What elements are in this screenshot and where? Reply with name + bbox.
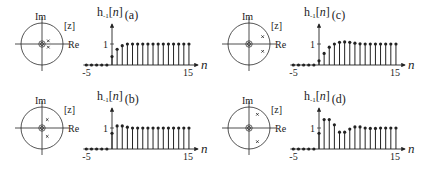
- x-tick-label-right: 15: [390, 151, 400, 162]
- stem-marker: [328, 118, 331, 121]
- stem-marker: [95, 147, 98, 150]
- y-tick-label: 1: [310, 39, 315, 50]
- stem-marker: [110, 55, 113, 58]
- y-tick-label: 1: [103, 39, 108, 50]
- n-axis-label: n: [408, 141, 415, 156]
- stem-marker: [116, 48, 119, 51]
- stem-marker: [343, 40, 346, 43]
- stem-marker: [364, 42, 367, 45]
- stem-marker: [157, 126, 160, 129]
- stem-marker: [182, 42, 185, 45]
- y-tick-label: 1: [103, 123, 108, 134]
- stem-marker: [302, 63, 305, 66]
- stem-marker: [121, 124, 124, 127]
- stem-marker: [151, 126, 154, 129]
- stem-marker: [136, 126, 139, 129]
- pole-x-icon: [46, 118, 49, 121]
- stem-marker: [358, 125, 361, 128]
- stem-marker: [151, 42, 154, 45]
- stem-marker: [100, 147, 103, 150]
- stem-marker: [177, 42, 180, 45]
- pole-x-icon: [256, 140, 259, 143]
- stem-marker: [187, 42, 190, 45]
- stem-plot: 1-515nh-1[n](d): [289, 89, 414, 162]
- x-tick-label-right: 15: [183, 67, 193, 78]
- x-tick-label-right: 15: [390, 67, 400, 78]
- n-axis-label: n: [201, 57, 208, 72]
- stem-marker: [131, 126, 134, 129]
- stem-marker: [333, 123, 336, 126]
- stem-marker: [172, 42, 175, 45]
- pole-zero-diagram: Im[z]Re: [15, 11, 80, 71]
- stem-marker: [141, 42, 144, 45]
- stem-marker: [126, 42, 129, 45]
- im-label: Im: [35, 11, 46, 22]
- im-label: Im: [242, 11, 253, 22]
- x-tick-label-left: -5: [289, 67, 297, 78]
- pole-x-icon: [261, 35, 264, 38]
- stem-marker: [364, 126, 367, 129]
- re-label: Re: [68, 39, 80, 50]
- x-tick-label-left: -5: [82, 151, 90, 162]
- stem-marker: [328, 46, 331, 49]
- pole-x-icon: [256, 113, 259, 116]
- z-plane-label: [z]: [64, 104, 75, 115]
- re-label: Re: [275, 123, 287, 134]
- stem-marker: [105, 147, 108, 150]
- x-tick-label-left: -5: [289, 151, 297, 162]
- stem-marker: [379, 126, 382, 129]
- stem-marker: [307, 147, 310, 150]
- pole-zero-diagram: Im[z]Re: [222, 95, 287, 155]
- stem-plot: 1-515nh-1[n](b): [82, 89, 207, 162]
- stem-marker: [116, 124, 119, 127]
- stem-marker: [162, 42, 165, 45]
- panels-container: Im[z]Re1-515nh-1[n](a)Im[z]Re1-515nh-1[n…: [15, 5, 415, 162]
- stem-marker: [394, 42, 397, 45]
- stem-marker: [338, 41, 341, 44]
- stem-marker: [126, 126, 129, 129]
- pole-x-icon: [47, 40, 50, 43]
- stem-marker: [389, 42, 392, 45]
- stem-marker: [187, 126, 190, 129]
- x-tick-label-left: -5: [82, 67, 90, 78]
- n-axis-label: n: [408, 57, 415, 72]
- stem-plot: 1-515nh-1[n](c): [289, 5, 414, 78]
- stem-marker: [121, 44, 124, 47]
- stem-plot: 1-515nh-1[n](a): [82, 5, 207, 78]
- stem-marker: [343, 131, 346, 134]
- stem-marker: [146, 42, 149, 45]
- im-label: Im: [242, 95, 253, 106]
- stem-marker: [136, 42, 139, 45]
- re-label: Re: [68, 123, 80, 134]
- stem-marker: [100, 63, 103, 66]
- stem-marker: [348, 41, 351, 44]
- stem-marker: [141, 126, 144, 129]
- panel-title: h-1[n](c): [304, 5, 345, 22]
- stem-marker: [323, 52, 326, 55]
- x-tick-label-right: 15: [183, 151, 193, 162]
- pole-x-icon: [261, 50, 264, 53]
- stem-marker: [384, 126, 387, 129]
- z-plane-label: [z]: [64, 20, 75, 31]
- pole-x-icon: [47, 46, 50, 49]
- stem-marker: [110, 132, 113, 135]
- panel-a: Im[z]Re1-515nh-1[n](a): [15, 5, 208, 78]
- stem-marker: [358, 42, 361, 45]
- pole-zero-diagram: Im[z]Re: [15, 95, 80, 155]
- stem-marker: [389, 126, 392, 129]
- stem-marker: [333, 42, 336, 45]
- stem-marker: [384, 42, 387, 45]
- stem-marker: [317, 59, 320, 62]
- stem-marker: [323, 118, 326, 121]
- stem-marker: [348, 127, 351, 130]
- panel-title: h-1[n](d): [304, 89, 346, 106]
- n-axis-label: n: [201, 141, 208, 156]
- im-label: Im: [35, 95, 46, 106]
- stem-marker: [312, 147, 315, 150]
- panel-b: Im[z]Re1-515nh-1[n](b): [15, 89, 208, 162]
- y-tick-label: 1: [310, 123, 315, 134]
- stem-marker: [374, 127, 377, 130]
- stem-marker: [177, 126, 180, 129]
- panel-title: h-1[n](a): [97, 5, 138, 22]
- stem-marker: [379, 42, 382, 45]
